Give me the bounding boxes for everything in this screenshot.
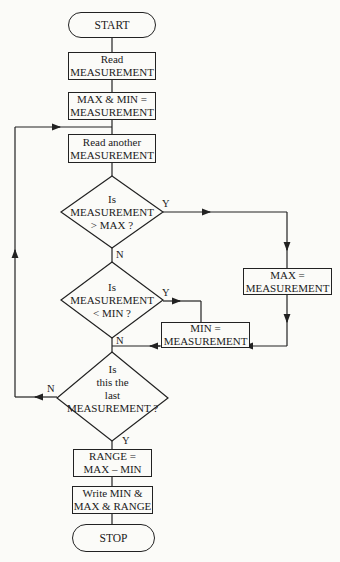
decision-min-line-2: MEASUREMENT xyxy=(62,294,162,307)
init-line-1: MAX & MIN = xyxy=(77,93,147,106)
init-line-2: MEASUREMENT xyxy=(70,106,154,119)
max-yes-label: Y xyxy=(162,198,170,209)
set-max-box: MAX = MEASUREMENT xyxy=(243,268,332,295)
min-no-label: N xyxy=(116,335,124,346)
stop-terminal: STOP xyxy=(72,524,155,552)
read-another-line-2: MEASUREMENT xyxy=(70,149,154,162)
stop-label: STOP xyxy=(100,532,128,545)
decision-max-line-2: MEASUREMENT xyxy=(62,206,162,219)
range-line-2: MAX – MIN xyxy=(83,463,141,476)
read-another-box: Read another MEASUREMENT xyxy=(68,134,156,163)
set-max-line-1: MAX = xyxy=(270,269,305,282)
decision-last-line-2: this the xyxy=(57,376,168,389)
read-measurement-box: Read MEASUREMENT xyxy=(68,52,156,80)
set-max-line-2: MEASUREMENT xyxy=(246,282,330,295)
decision-min-text: Is MEASUREMENT < MIN ? xyxy=(62,281,162,320)
set-min-line-2: MEASUREMENT xyxy=(164,335,248,348)
decision-last-line-1: Is xyxy=(57,363,168,376)
range-line-1: RANGE = xyxy=(89,450,136,463)
max-no-label: N xyxy=(116,249,124,260)
read-line-2: MEASUREMENT xyxy=(70,66,154,79)
decision-last-text: Is this the last MEASUREMENT ? xyxy=(57,363,168,415)
decision-last-line-4: MEASUREMENT ? xyxy=(57,402,168,415)
last-yes-label: Y xyxy=(122,435,130,446)
decision-min-line-1: Is xyxy=(62,281,162,294)
start-label: START xyxy=(95,19,130,32)
write-output-box: Write MIN & MAX & RANGE xyxy=(72,486,153,514)
read-another-line-1: Read another xyxy=(83,136,141,149)
min-yes-label: Y xyxy=(162,287,170,298)
decision-max-text: Is MEASUREMENT > MAX ? xyxy=(62,193,162,232)
decision-max-line-3: > MAX ? xyxy=(62,219,162,232)
init-max-min-box: MAX & MIN = MEASUREMENT xyxy=(68,92,156,120)
last-no-label: N xyxy=(47,383,55,394)
decision-last-line-3: last xyxy=(57,389,168,402)
start-terminal: START xyxy=(68,12,156,38)
write-line-1: Write MIN & xyxy=(82,487,142,500)
set-min-line-1: MIN = xyxy=(190,322,220,335)
set-min-box: MIN = MEASUREMENT xyxy=(161,322,250,348)
read-line-1: Read xyxy=(101,53,124,66)
decision-min-line-3: < MIN ? xyxy=(62,307,162,320)
write-line-2: MAX & RANGE xyxy=(74,500,152,513)
decision-max-line-1: Is xyxy=(62,193,162,206)
range-box: RANGE = MAX – MIN xyxy=(73,449,152,477)
